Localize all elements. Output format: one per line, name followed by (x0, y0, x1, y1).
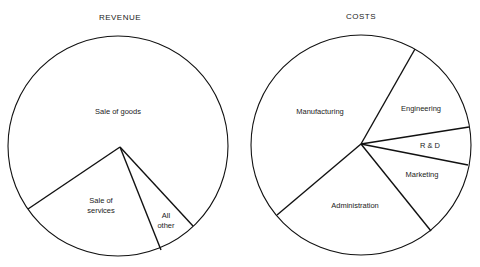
slice-label-manufacturing: Manufacturing (296, 107, 344, 116)
slice-label-sale-of-services-line2: services (87, 206, 115, 215)
slice-label-marketing: Marketing (406, 170, 439, 179)
revenue-title: REVENUE (99, 13, 141, 22)
revenue-circle (8, 36, 228, 256)
slice-label-rd: R & D (420, 141, 441, 150)
revenue-pie-chart: REVENUE Sale of goods Sale of services A… (8, 13, 228, 256)
revenue-divider-services-other (120, 147, 161, 250)
costs-divider-engineering-rd (361, 127, 469, 144)
costs-divider-manufacturing-engineering (361, 49, 415, 144)
slice-label-administration: Administration (331, 201, 379, 210)
slice-label-sale-of-services-line1: Sale of (89, 196, 113, 205)
revenue-divider-other-goods (120, 147, 193, 226)
slice-label-all-other-line2: other (157, 221, 175, 230)
slice-label-sale-of-goods: Sale of goods (95, 107, 141, 116)
costs-pie-chart: COSTS Manufacturing Engineering R & D Ma… (251, 12, 471, 255)
slice-label-all-other-line1: All (162, 211, 171, 220)
costs-divider-rd-marketing (361, 144, 468, 165)
costs-divider-marketing-administration (361, 144, 431, 231)
slice-label-engineering: Engineering (401, 104, 441, 113)
costs-title: COSTS (346, 12, 376, 21)
pie-charts: REVENUE Sale of goods Sale of services A… (0, 0, 480, 267)
